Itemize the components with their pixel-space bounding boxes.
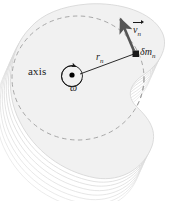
axis-label: axis <box>28 66 47 77</box>
figure-canvas <box>0 0 186 201</box>
mass-element-marker <box>133 51 140 58</box>
mass-element-label: δmn <box>140 47 155 60</box>
velocity-subscript: n <box>137 30 141 38</box>
velocity-vector-bar-arrowhead <box>141 20 144 24</box>
radius-label: rn <box>96 52 103 65</box>
axis-center-dot <box>69 72 74 77</box>
mass-element-subscript: n <box>152 52 156 60</box>
velocity-label: vn <box>133 25 141 38</box>
omega-label: ω <box>70 83 77 93</box>
physics-figure-rotating-body: axis ω rn vn δmn <box>0 0 186 201</box>
body-top-face <box>10 4 164 179</box>
radius-subscript: n <box>100 57 104 65</box>
mass-element-symbol: δm <box>140 46 152 57</box>
